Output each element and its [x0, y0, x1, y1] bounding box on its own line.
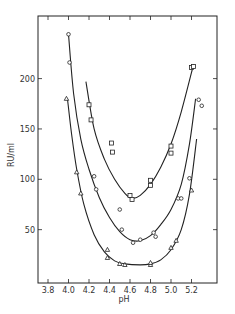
circle-marker — [120, 228, 124, 232]
square-marker — [130, 197, 134, 201]
square-marker — [128, 193, 132, 197]
x-tick-label: 4.2 — [83, 286, 96, 295]
square-marker — [169, 151, 173, 155]
circles-curve — [69, 34, 196, 241]
circle-marker — [152, 231, 156, 235]
y-tick-label: 200 — [20, 75, 35, 84]
x-axis-label: pH — [118, 295, 129, 304]
triangle-marker — [79, 191, 83, 195]
circle-marker — [118, 208, 122, 212]
triangle-marker — [105, 247, 109, 251]
square-marker — [89, 118, 93, 122]
square-marker — [149, 183, 153, 187]
x-tick-label: 5.0 — [165, 286, 178, 295]
square-marker — [169, 144, 173, 148]
y-tick-label: 150 — [20, 125, 35, 134]
x-tick-label: 4.0 — [62, 286, 75, 295]
x-axis-ticks: 3.84.04.24.44.64.85.05.2 — [42, 16, 198, 295]
square-marker — [192, 65, 196, 69]
y-tick-label: 50 — [25, 226, 35, 235]
ph-activity-chart: 3.84.04.24.44.64.85.05.2 50100150200 pH … — [0, 0, 235, 314]
square-marker — [149, 178, 153, 182]
circle-marker — [179, 197, 183, 201]
triangle-marker — [169, 245, 173, 249]
y-axis-label: RU/ml — [7, 143, 16, 167]
data-markers — [64, 32, 203, 266]
x-tick-label: 4.6 — [124, 286, 137, 295]
circle-marker — [200, 104, 204, 108]
square-marker — [110, 141, 114, 145]
triangle-marker — [148, 260, 152, 264]
circle-marker — [131, 241, 135, 245]
circle-marker — [92, 174, 96, 178]
triangle-marker — [75, 170, 79, 174]
circle-marker — [154, 235, 158, 239]
square-marker — [87, 103, 91, 107]
fitted-curves — [67, 34, 196, 265]
square-marker — [111, 150, 115, 154]
circle-marker — [67, 32, 71, 36]
circle-marker — [197, 98, 201, 102]
circle-marker — [138, 238, 142, 242]
x-tick-label: 5.2 — [185, 286, 198, 295]
circle-marker — [94, 188, 98, 192]
circle-marker — [188, 176, 192, 180]
x-tick-label: 4.8 — [144, 286, 157, 295]
y-tick-label: 100 — [20, 175, 35, 184]
x-tick-label: 3.8 — [42, 286, 55, 295]
squares-curve — [86, 65, 194, 199]
triangle-marker — [64, 96, 68, 100]
plot-frame — [38, 16, 217, 283]
x-tick-label: 4.4 — [103, 286, 116, 295]
plot-border — [38, 16, 217, 283]
circle-marker — [68, 61, 72, 65]
